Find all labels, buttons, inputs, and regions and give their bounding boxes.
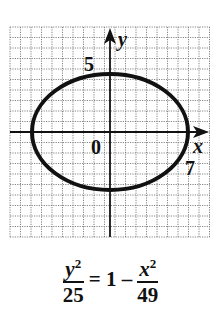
equation-middle: = 1 – [89, 267, 132, 292]
x-tick-label-7: 7 [185, 157, 195, 179]
y-tick-label-5: 5 [84, 53, 94, 75]
lhs-denominator: 25 [63, 284, 84, 306]
rhs-variable: x [139, 257, 150, 281]
rhs-fraction: x2 49 [137, 253, 158, 306]
lhs-numerator: y2 [65, 253, 81, 280]
rhs-numerator: x2 [139, 253, 156, 280]
rhs-exponent: 2 [150, 256, 157, 271]
ellipse-graph: y x 5 7 0 [0, 0, 221, 250]
lhs-exponent: 2 [75, 256, 82, 271]
lhs-variable: y [65, 257, 74, 281]
origin-label: 0 [91, 136, 101, 158]
lhs-fraction: y2 25 [63, 253, 84, 306]
rhs-denominator: 49 [137, 284, 158, 306]
x-axis-label: x [192, 135, 203, 157]
ellipse-equation: y2 25 = 1 – x2 49 [0, 250, 221, 309]
y-axis-label: y [116, 28, 127, 51]
